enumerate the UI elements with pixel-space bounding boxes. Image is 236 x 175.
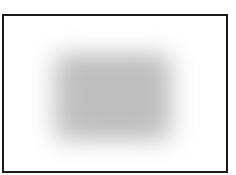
image-frame (2, 14, 228, 173)
blurred-image-core (74, 66, 154, 126)
